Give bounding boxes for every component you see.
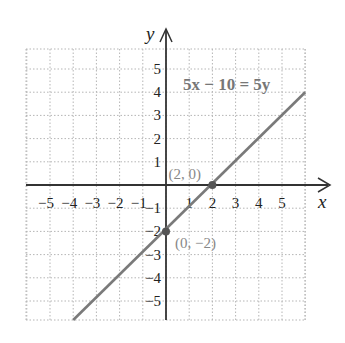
- x-tick-label: −5: [38, 195, 54, 211]
- y-tick-label: −5: [145, 293, 161, 309]
- point-label: (0, −2): [175, 235, 216, 252]
- point-marker: [208, 181, 216, 189]
- y-tick-label: −4: [145, 270, 161, 286]
- x-tick-label: 5: [278, 195, 286, 211]
- x-tick-label: 2: [209, 195, 217, 211]
- x-tick-labels: −5−4−3−2−112345: [38, 195, 286, 211]
- y-tick-label: −3: [145, 247, 161, 263]
- y-tick-label: 4: [154, 84, 162, 100]
- x-tick-label: 4: [255, 195, 263, 211]
- x-tick-label: 3: [232, 195, 240, 211]
- point-label: (2, 0): [168, 166, 201, 183]
- x-tick-label: −4: [61, 195, 77, 211]
- x-axis-label: x: [317, 191, 327, 212]
- x-tick-label: −3: [84, 195, 100, 211]
- y-axis-label: y: [144, 23, 155, 44]
- equation-label: 5x − 10 = 5y: [183, 75, 271, 94]
- y-tick-label: −1: [145, 200, 161, 216]
- point-marker: [162, 227, 170, 235]
- y-tick-label: 3: [154, 107, 162, 123]
- y-tick-label: 2: [154, 131, 162, 147]
- x-tick-label: −2: [108, 195, 124, 211]
- coordinate-plane: x y −5−4−3−2−112345 54321−1−2−3−4−5 (2, …: [0, 0, 345, 343]
- y-tick-label: 1: [154, 154, 162, 170]
- y-tick-label: 5: [154, 61, 162, 77]
